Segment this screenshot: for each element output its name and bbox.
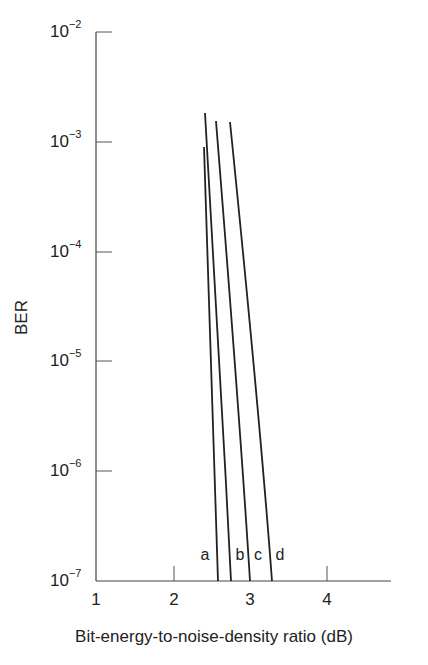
x-tick-label-4: 4 bbox=[322, 590, 331, 610]
curve-d bbox=[230, 122, 272, 581]
x-tick-label-1: 1 bbox=[91, 590, 100, 610]
y-tick-label-1e-5: 10−5 bbox=[50, 349, 81, 371]
y-tick-label-1e-6: 10−6 bbox=[50, 459, 81, 481]
curve-label-c: c bbox=[254, 546, 262, 564]
y-ticks bbox=[96, 32, 112, 471]
y-axis-title: BER bbox=[12, 300, 32, 335]
ber-chart-plot bbox=[0, 0, 428, 665]
y-tick-label-1e-7: 10−7 bbox=[50, 569, 81, 591]
y-tick-label-1e-4: 10−4 bbox=[50, 240, 81, 262]
curve-c bbox=[216, 121, 250, 581]
y-tick-label-1e-2: 10−2 bbox=[50, 20, 81, 42]
curve-label-b: b bbox=[236, 546, 245, 564]
x-tick-label-2: 2 bbox=[169, 590, 178, 610]
y-tick-label-1e-3: 10−3 bbox=[50, 130, 81, 152]
curve-b bbox=[205, 113, 231, 581]
x-tick-label-3: 3 bbox=[245, 590, 254, 610]
curve-label-a: a bbox=[201, 546, 210, 564]
x-axis-title: Bit-energy-to-noise-density ratio (dB) bbox=[0, 627, 428, 647]
curve-label-d: d bbox=[276, 546, 285, 564]
